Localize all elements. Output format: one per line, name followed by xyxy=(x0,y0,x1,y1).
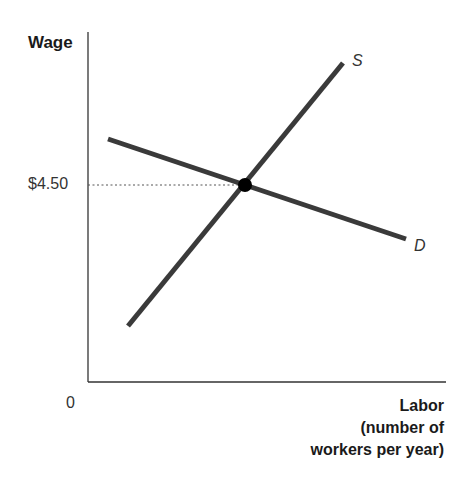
x-axis-label: Labor (number of workers per year) xyxy=(311,395,444,461)
demand-curve xyxy=(108,139,406,239)
x-axis-label-line1: Labor xyxy=(311,395,444,417)
x-axis-label-line3: workers per year) xyxy=(311,439,444,461)
equilibrium-point xyxy=(238,178,252,192)
y-axis-label: Wage xyxy=(28,33,73,53)
demand-label: D xyxy=(414,237,426,255)
supply-label: S xyxy=(352,52,363,70)
supply-curve xyxy=(128,63,343,326)
wage-tick-label: $4.50 xyxy=(28,175,68,193)
x-axis-label-line2: (number of xyxy=(311,417,444,439)
origin-label: 0 xyxy=(66,394,75,412)
